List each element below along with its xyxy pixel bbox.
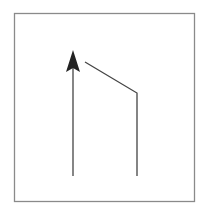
frame-border (15, 14, 195, 202)
diagram-canvas (0, 0, 206, 211)
